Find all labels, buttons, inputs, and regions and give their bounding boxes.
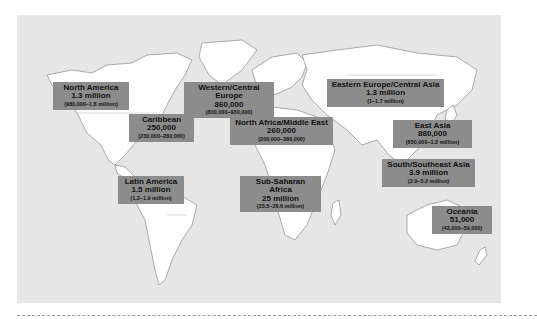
region-value: 260,000 xyxy=(234,127,329,135)
region-label-western-central-europe: Western/Central Europe 860,000 (800,000–… xyxy=(184,82,274,118)
region-label-eastern-europe-central-asia: Eastern Europe/Central Asia 1.3 million … xyxy=(327,79,444,107)
region-value: 25 million xyxy=(244,195,317,203)
region-label-caribbean: Caribbean 250,000 (230,000–280,000) xyxy=(129,114,194,142)
region-value: 880,000 xyxy=(397,130,468,138)
region-label-south-southeast-asia: South/Southeast Asia 3.9 million (2.9–5.… xyxy=(382,159,475,187)
region-value: 1.5 million xyxy=(122,186,180,194)
new-zealand-landmass xyxy=(475,247,487,265)
region-range: (43,000–59,000) xyxy=(436,226,488,232)
region-label-oceania: Oceania 51,000 (43,000–59,000) xyxy=(432,206,492,234)
region-value: 250,000 xyxy=(133,124,190,132)
region-label-latin-america: Latin America 1.5 million (1.2–1.9 milli… xyxy=(118,176,184,204)
region-label-north-america: North America 1.3 million (980,000–1.8 m… xyxy=(53,82,129,110)
region-label-east-asia: East Asia 880,000 (650,000–1.2 million) xyxy=(393,120,472,148)
region-name: Western/Central Europe xyxy=(188,84,270,101)
region-range: (650,000–1.2 million) xyxy=(397,140,468,146)
region-value: 3.9 million xyxy=(386,169,471,177)
region-range: (200,000–380,000) xyxy=(234,137,329,143)
region-label-sub-saharan-africa: Sub-Saharan Africa 25 million (23.5–26.6… xyxy=(240,176,321,212)
region-value: 860,000 xyxy=(188,101,270,109)
region-range: (800,000–930,000) xyxy=(188,110,270,116)
region-range: (230,000–280,000) xyxy=(133,134,190,140)
region-range: (980,000–1.8 million) xyxy=(57,102,125,108)
dashed-divider xyxy=(17,315,537,316)
greenland-landmass xyxy=(199,40,257,85)
region-range: (1.2–1.9 million) xyxy=(122,196,180,202)
region-value: 1.3 million xyxy=(57,92,125,100)
region-range: (23.5–26.6 million) xyxy=(244,204,317,210)
region-value: 51,000 xyxy=(436,216,488,224)
madagascar-landmass xyxy=(331,200,341,225)
region-value: 1.3 million xyxy=(331,89,440,97)
region-label-north-africa-middle-east: North Africa/Middle East 260,000 (200,00… xyxy=(230,117,333,145)
region-range: (1–1.7 million) xyxy=(331,99,440,105)
region-range: (2.9–5.2 million) xyxy=(386,179,471,185)
region-name: Sub-Saharan Africa xyxy=(244,178,317,195)
